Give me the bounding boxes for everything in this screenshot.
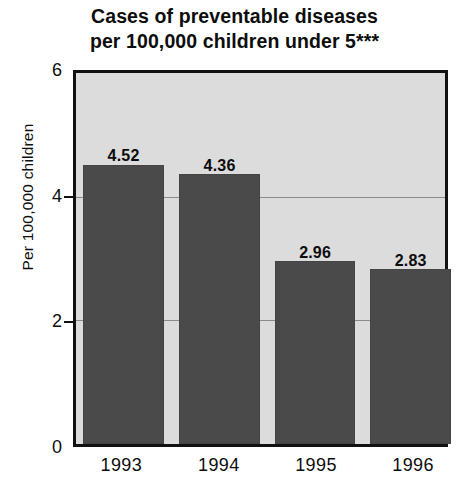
x-tick-label-1996: 1996	[372, 455, 454, 476]
bar-value-1996: 2.83	[370, 252, 450, 270]
bar-1995	[275, 261, 355, 444]
chart-title-line-2: per 100,000 children under 5***	[0, 29, 469, 54]
y-tick-mark-2	[64, 321, 73, 323]
bar-chart-figure: Cases of preventable diseases per 100,00…	[0, 0, 469, 503]
plot-area: 4.52 4.36 2.96 2.83	[73, 70, 448, 447]
bar-value-1993: 4.52	[83, 147, 163, 165]
chart-title-line-1: Cases of preventable diseases	[0, 4, 469, 29]
x-tick-label-1994: 1994	[178, 455, 260, 476]
chart-title: Cases of preventable diseases per 100,00…	[0, 4, 469, 54]
y-tick-label-0: 0	[32, 438, 62, 456]
y-tick-mark-4	[64, 196, 73, 198]
x-tick-label-1993: 1993	[81, 455, 163, 476]
x-axis-tick-labels: 1993 1994 1995 1996	[73, 455, 448, 485]
bar-value-1994: 4.36	[179, 157, 259, 175]
bar-value-1995: 2.96	[275, 244, 355, 262]
y-tick-label-4: 4	[32, 187, 62, 205]
y-axis-tick-marks	[64, 70, 73, 447]
y-tick-label-6: 6	[32, 61, 62, 79]
y-tick-label-2: 2	[32, 312, 62, 330]
plot-inner: 4.52 4.36 2.96 2.83	[76, 73, 445, 444]
bar-1993	[83, 165, 163, 444]
bar-1994	[179, 174, 259, 444]
y-axis-tick-labels: 6 4 2 0	[30, 70, 62, 447]
bar-1996	[370, 269, 450, 444]
x-tick-label-1995: 1995	[275, 455, 357, 476]
